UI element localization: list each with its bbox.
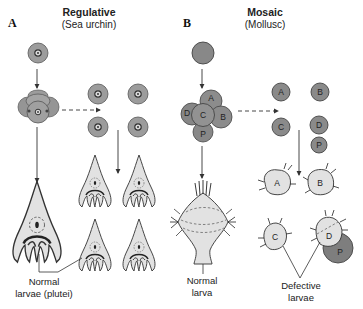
svg-text:C: C — [278, 122, 284, 132]
defective-larvae: A B C P D — [258, 163, 353, 263]
urchin-zygote — [28, 43, 48, 63]
diagram-canvas: A Regulative (Sea urchin) — [0, 0, 363, 309]
svg-text:C: C — [200, 110, 206, 120]
normal-larva-caption-1: Normal — [187, 275, 218, 286]
svg-text:A: A — [208, 93, 214, 103]
svg-text:B: B — [317, 87, 323, 97]
svg-text:P: P — [337, 247, 343, 257]
svg-text:P: P — [316, 140, 322, 150]
caption-leader-a-right — [58, 258, 82, 272]
panel-b-subtitle: (Mollusc) — [245, 19, 286, 30]
svg-text:C: C — [272, 232, 278, 242]
pluteus-larvae-isolated — [79, 155, 155, 271]
mollusc-zygote — [192, 42, 214, 64]
panel-b-letter: B — [183, 16, 191, 30]
panel-a: A Regulative (Sea urchin) — [8, 6, 155, 299]
svg-text:D: D — [316, 120, 322, 130]
mollusc-isolated-blastomeres: A B C D P — [272, 83, 329, 153]
urchin-isolated-blastomeres — [88, 84, 148, 137]
svg-text:B: B — [317, 178, 323, 188]
caption-leader-b — [283, 242, 320, 278]
urchin-8-cell-embryo — [18, 90, 59, 123]
defective-larvae-caption-2: larvae — [288, 292, 314, 303]
svg-text:D: D — [184, 108, 190, 118]
trochophore-larva-normal — [170, 180, 236, 274]
panel-a-letter: A — [8, 16, 17, 30]
panel-a-subtitle: (Sea urchin) — [62, 19, 116, 30]
defective-larvae-caption-1: Defective — [281, 280, 321, 291]
normal-larvae-caption-2: larvae (plutei) — [15, 288, 73, 299]
panel-a-title: Regulative — [62, 6, 115, 18]
svg-text:P: P — [200, 129, 206, 139]
normal-larva-caption-2: larva — [192, 287, 213, 298]
svg-text:B: B — [220, 112, 226, 122]
normal-larvae-caption-1: Normal — [29, 276, 60, 287]
svg-text:D: D — [326, 231, 332, 241]
svg-text:A: A — [278, 87, 284, 97]
mollusc-embryo: A D B P C — [181, 90, 232, 142]
svg-text:A: A — [274, 178, 280, 188]
panel-b-title: Mosaic — [247, 6, 283, 18]
pluteus-larva-whole — [13, 182, 61, 263]
panel-b: B Mosaic (Mollusc) A D B P C A B C — [170, 6, 353, 303]
